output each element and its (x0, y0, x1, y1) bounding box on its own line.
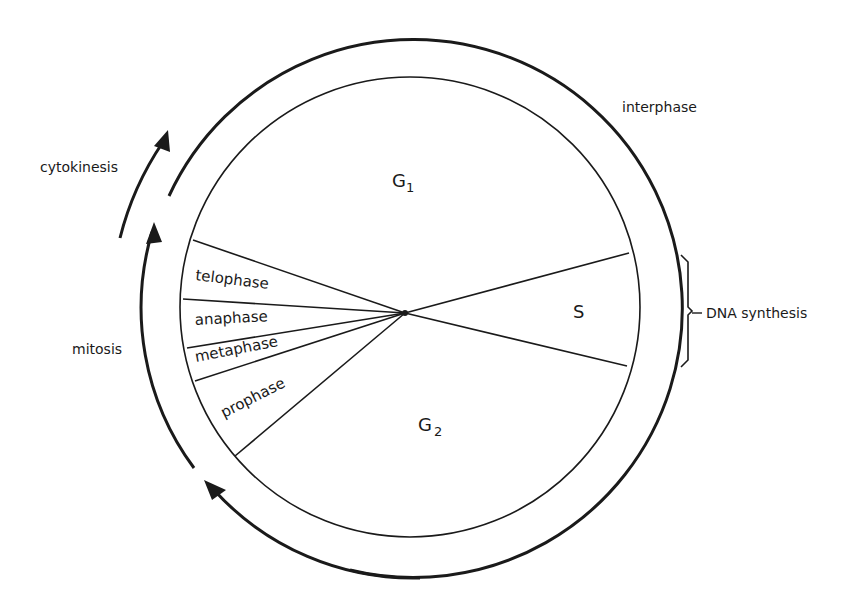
mitosis-label: mitosis (72, 341, 122, 357)
mitosis-arrowhead-icon (146, 222, 162, 244)
telophase-label: telophase (195, 266, 270, 293)
dna-synthesis-label: DNA synthesis (706, 305, 807, 321)
anaphase-label: anaphase (194, 307, 268, 329)
g1-label: G1 (392, 170, 414, 195)
g2-label: G2 (418, 414, 442, 439)
prophase-label: prophase (218, 374, 288, 422)
cytokinesis-arrowhead-icon (154, 130, 170, 152)
s-label: S (573, 301, 584, 322)
cytokinesis-label: cytokinesis (40, 159, 118, 175)
inner-cycle-circle (180, 77, 640, 537)
convergence-point (402, 310, 408, 316)
mitosis-arc (141, 232, 194, 468)
metaphase-label: metaphase (193, 332, 279, 366)
interphase-label: interphase (622, 99, 697, 115)
g2-to-mitosis-arc (214, 490, 420, 578)
divider-s-g2 (405, 313, 627, 366)
cell-cycle-diagram: G1 S G2 telophase anaphase metaphase pro… (0, 0, 852, 590)
bottom-arrowhead-icon (204, 480, 226, 500)
cytokinesis-arc (120, 142, 163, 238)
divider-g1-s (405, 253, 629, 313)
